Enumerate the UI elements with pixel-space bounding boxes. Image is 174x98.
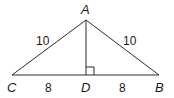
vertex-label-a: A [80, 2, 90, 17]
vertex-label-c: C [7, 80, 17, 95]
right-angle-marker [86, 67, 94, 75]
length-label-ac: 10 [36, 34, 50, 48]
length-label-ab: 10 [123, 34, 137, 48]
vertex-label-b: B [155, 80, 164, 95]
triangle-diagram: A C D B 10 10 8 8 [0, 0, 174, 98]
vertex-label-d: D [81, 80, 90, 95]
length-label-cd: 8 [45, 81, 52, 95]
length-label-db: 8 [119, 81, 126, 95]
